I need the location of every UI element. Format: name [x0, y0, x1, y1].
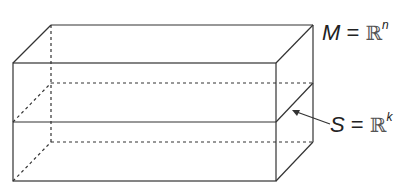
label-S-space: ℝ — [370, 113, 387, 137]
label-S-eq: = — [351, 112, 364, 137]
top-right-depth-edge — [276, 25, 313, 63]
arrow-line — [294, 111, 330, 124]
label-M-space: ℝ — [365, 21, 382, 45]
label-M: M = ℝn — [322, 20, 389, 46]
label-S-exp: k — [386, 110, 392, 124]
label-S-var: S — [330, 112, 345, 137]
label-M-eq: = — [346, 20, 359, 45]
top-left-depth-edge — [13, 25, 51, 63]
label-S: S = ℝk — [330, 112, 392, 138]
label-M-exp: n — [382, 18, 389, 32]
hidden-edges — [13, 25, 313, 181]
bottom-right-depth-edge — [276, 142, 313, 181]
slice-left-depth-edge — [13, 83, 51, 122]
bottom-left-depth-edge — [13, 142, 51, 181]
label-M-var: M — [322, 20, 340, 45]
